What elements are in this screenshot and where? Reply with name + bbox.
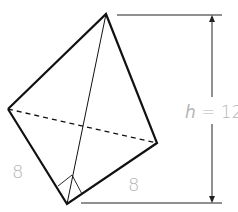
- height-label: h = 12: [185, 102, 238, 122]
- left-edge-label: 8: [12, 161, 23, 182]
- right-angle-mark-left: [58, 175, 72, 186]
- altitude-line: [67, 14, 106, 204]
- arrowhead-up-icon: [209, 15, 215, 22]
- right-angle-mark-right: [72, 175, 82, 194]
- hidden-edge: [8, 109, 157, 143]
- arrowhead-down-icon: [209, 196, 215, 203]
- pyramid-diagram: h = 12 8 8: [0, 0, 238, 212]
- bottom-edge-label: 8: [128, 174, 139, 195]
